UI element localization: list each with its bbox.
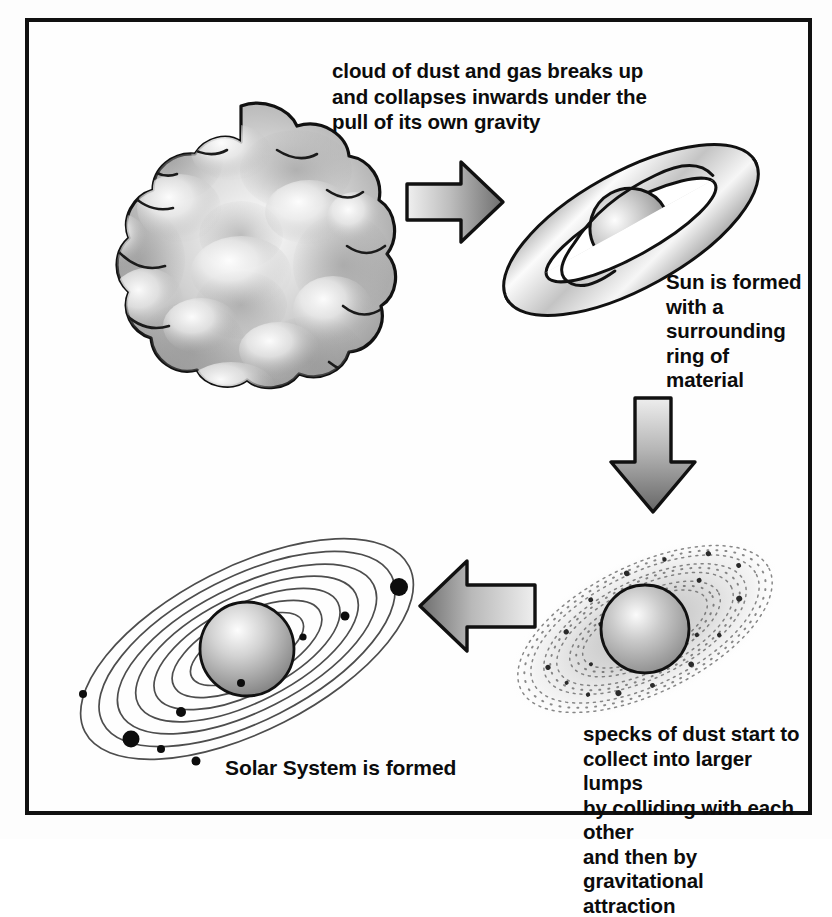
diagram-frame: cloud of dust and gas breaks up and coll… [25,18,812,815]
caption-sun: Sun is formed with a surrounding ring of… [666,270,801,393]
planet-dot [390,578,408,596]
caption-solar-system: Solar System is formed [225,755,456,780]
cloud-illustration [81,100,401,425]
planet-dot [237,679,245,687]
planet-dot [341,612,350,621]
planet-dot [79,690,87,698]
arrow-down-icon [605,394,701,516]
protostar-sphere [601,585,689,673]
diagram-canvas: cloud of dust and gas breaks up and coll… [29,22,808,811]
sun-sphere-final [200,602,294,696]
planet-dot [176,707,186,717]
planet-dot [192,757,201,766]
planet-dot [299,633,306,640]
solar-system-illustration [57,517,437,782]
planet-dot [157,745,165,753]
dusty-disk-illustration [495,517,795,742]
caption-dust: specks of dust start to collect into lar… [583,722,808,917]
caption-cloud: cloud of dust and gas breaks up and coll… [332,58,647,135]
planet-dot [123,731,140,748]
